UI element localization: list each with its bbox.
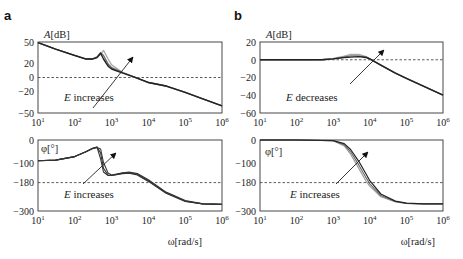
ytick: −180 [13, 177, 34, 188]
svg-text:106: 106 [215, 214, 229, 226]
bode-figure: a b A[dB] 50 20 0 −20 −50 E increases 10… [0, 0, 463, 259]
ytick: 0 [29, 135, 34, 146]
panel-b-magnitude-ylabel: A[dB] [265, 29, 292, 40]
svg-text:101: 101 [253, 214, 267, 226]
svg-text:101: 101 [31, 116, 45, 128]
panel-b-phase-ylabel: φ[°] [265, 146, 282, 157]
trend-arrow [350, 50, 384, 84]
svg-text:103: 103 [326, 116, 340, 128]
panel-b-letter: b [234, 8, 242, 23]
ytick: 20 [24, 58, 34, 69]
panel-a-phase-plot: 0 −100 −180 −300 φ[°] E increases [13, 135, 222, 217]
svg-text:104: 104 [363, 214, 377, 226]
panel-a-letter: a [4, 8, 12, 23]
panel-b-phase-plot: 0 −100 −180 −300 φ[°] E increases [235, 135, 443, 217]
svg-text:106: 106 [436, 214, 450, 226]
panel-b-xlabel: ω[rad/s] [401, 236, 435, 247]
svg-text:104: 104 [363, 116, 377, 128]
panel-a-magnitude-plot: A[dB] 50 20 0 −20 −50 E increases [18, 29, 222, 119]
svg-text:101: 101 [31, 214, 45, 226]
ytick: 0 [251, 135, 256, 146]
svg-text:101: 101 [253, 116, 267, 128]
svg-text:104: 104 [142, 214, 156, 226]
panel-b-magnitude-plot: A[dB] 20 0 −20 −40 −60 E decreases [240, 29, 443, 119]
svg-text:102: 102 [290, 116, 304, 128]
panel-a-phase-xticks: 101 102 103 104 105 106 [31, 214, 229, 226]
ytick: 50 [24, 37, 34, 48]
ytick: 0 [251, 55, 256, 66]
svg-text:102: 102 [290, 214, 304, 226]
svg-text:103: 103 [105, 214, 119, 226]
svg-text:106: 106 [436, 116, 450, 128]
svg-text:105: 105 [178, 116, 192, 128]
ytick: 20 [246, 37, 256, 48]
annotation-e-decreases: E decreases [285, 91, 338, 103]
svg-text:105: 105 [400, 116, 414, 128]
ytick: −100 [235, 158, 256, 169]
svg-text:103: 103 [326, 214, 340, 226]
axes-frame [38, 140, 222, 211]
ytick: −100 [13, 158, 34, 169]
svg-text:105: 105 [400, 214, 414, 226]
annotation-e-increases: E increases [289, 188, 340, 200]
annotation-e-increases: E increases [63, 188, 114, 200]
panel-a-magnitude-ylabel: A[dB] [43, 29, 70, 40]
svg-text:102: 102 [68, 116, 82, 128]
svg-text:102: 102 [68, 214, 82, 226]
svg-text:103: 103 [105, 116, 119, 128]
panel-a-magnitude-xticks: 101 102 103 104 105 106 [31, 116, 229, 128]
trend-arrow [83, 153, 116, 184]
ytick: −20 [18, 86, 34, 97]
svg-text:105: 105 [178, 214, 192, 226]
ytick: 0 [29, 72, 34, 83]
ytick: −40 [240, 90, 256, 101]
ytick: −20 [240, 72, 256, 83]
ytick: −180 [235, 177, 256, 188]
panel-a-xlabel: ω[rad/s] [168, 236, 202, 247]
svg-text:104: 104 [142, 116, 156, 128]
annotation-e-increases: E increases [63, 91, 114, 103]
panel-b-phase-xticks: 101 102 103 104 105 106 [253, 214, 450, 226]
svg-text:106: 106 [215, 116, 229, 128]
panel-b-magnitude-xticks: 101 102 103 104 105 106 [253, 116, 450, 128]
panel-a-phase-ylabel: φ[°] [41, 143, 58, 154]
